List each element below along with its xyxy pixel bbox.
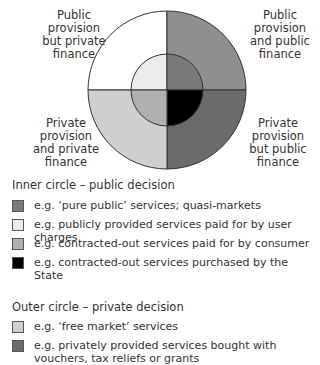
label-bottom-right: Privateprovisionbut publicfinance — [233, 117, 320, 169]
legend-item: e.g. privately provided services bought … — [12, 340, 312, 365]
swatch-icon — [12, 340, 24, 352]
label-top-left: Publicprovisionbut privatefinance — [29, 9, 119, 61]
legend-item: e.g. contracted-out services paid for by… — [12, 238, 309, 251]
inner-legend-title: Inner circle – public decision — [12, 178, 175, 192]
legend-item: e.g. ‘pure public’ services; quasi-marke… — [12, 200, 261, 213]
label-bottom-left: Privateprovisionand privatefinance — [21, 117, 111, 169]
label-top-right: Publicprovisionand publicfinance — [235, 9, 320, 61]
legend-item: e.g. ‘free market’ services — [12, 321, 178, 334]
swatch-icon — [12, 238, 24, 250]
outer-legend-title: Outer circle – private decision — [12, 300, 184, 314]
legend-item: e.g. contracted-out services purchased b… — [12, 257, 319, 282]
swatch-icon — [12, 257, 24, 269]
swatch-icon — [12, 219, 24, 231]
swatch-icon — [12, 200, 24, 212]
swatch-icon — [12, 321, 24, 333]
